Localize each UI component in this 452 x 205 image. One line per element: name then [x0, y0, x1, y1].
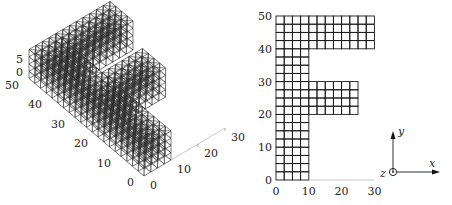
grid-cell — [317, 32, 325, 40]
z-axis-label: z — [379, 167, 386, 180]
y-axis-label: y — [397, 125, 405, 138]
grid-cell — [350, 82, 358, 90]
y-arrow-head-icon — [391, 131, 396, 139]
grid-cell — [292, 164, 300, 172]
grid-cell — [325, 16, 333, 24]
grid-cell — [333, 32, 341, 40]
grid-cell — [358, 32, 366, 40]
grid-cell — [292, 131, 300, 139]
grid-cell — [366, 16, 374, 24]
x-tick-label-3d: 10 — [177, 163, 191, 176]
grid-cell — [342, 82, 350, 90]
grid-cell — [292, 147, 300, 155]
grid-cell — [317, 24, 325, 32]
grid-cell — [301, 82, 309, 90]
grid-cell — [333, 24, 341, 32]
grid-cell — [292, 41, 300, 49]
grid-cell — [292, 123, 300, 131]
grid-cell — [292, 172, 300, 180]
grid-cell — [333, 82, 341, 90]
z-tick-label-3d: 5 — [16, 53, 23, 66]
y-tick-label-3d: 50 — [5, 79, 19, 92]
grid-cell — [301, 24, 309, 32]
grid-cell — [301, 98, 309, 106]
grid-cell — [284, 49, 292, 57]
grid-cell — [317, 82, 325, 90]
grid-cell — [284, 123, 292, 131]
x-tick-label-3d: 0 — [150, 179, 157, 192]
grid-cell — [284, 98, 292, 106]
grid-cell — [301, 131, 309, 139]
y-tick-label-3d: 20 — [74, 137, 88, 150]
grid-cell — [317, 98, 325, 106]
y-tick-label: 10 — [258, 141, 272, 154]
grid-cell — [276, 32, 284, 40]
grid-cell — [292, 155, 300, 163]
x-tick-label-3d: 30 — [231, 131, 245, 144]
x-tick-label: 10 — [302, 185, 316, 198]
grid-cell — [284, 155, 292, 163]
grid-cell — [301, 49, 309, 57]
grid-cell — [276, 57, 284, 65]
grid-cell — [301, 155, 309, 163]
grid-cell — [276, 65, 284, 73]
grid-cell — [333, 106, 341, 114]
grid-cell — [276, 82, 284, 90]
grid-cell — [292, 82, 300, 90]
grid-cell — [292, 16, 300, 24]
grid-cell — [333, 16, 341, 24]
grid-cell — [284, 73, 292, 81]
grid-cell — [301, 16, 309, 24]
y-tick-label: 50 — [258, 10, 272, 23]
grid-cell — [317, 16, 325, 24]
z-tick-label-3d: 0 — [16, 66, 23, 79]
grid-cell — [342, 24, 350, 32]
grid-cell — [342, 98, 350, 106]
grid-cell — [276, 131, 284, 139]
grid-cell — [284, 65, 292, 73]
grid-cell — [309, 82, 317, 90]
grid-cell — [301, 41, 309, 49]
grid-cell — [366, 24, 374, 32]
grid-cell — [358, 24, 366, 32]
grid-cell — [325, 41, 333, 49]
x-tick-label-3d: 20 — [204, 147, 218, 160]
grid-cell — [292, 139, 300, 147]
grid-cell — [292, 98, 300, 106]
grid-cell — [276, 24, 284, 32]
y-tick-label: 40 — [258, 43, 272, 56]
grid-cell — [301, 123, 309, 131]
grid-cell — [350, 32, 358, 40]
grid-cell — [317, 90, 325, 98]
grid-cell — [284, 106, 292, 114]
grid-cell — [276, 73, 284, 81]
grid-cell — [317, 41, 325, 49]
grid-cell — [317, 106, 325, 114]
y-tick-label-3d: 40 — [28, 98, 42, 111]
grid-cell — [276, 147, 284, 155]
grid-cell — [284, 90, 292, 98]
grid-cell — [350, 106, 358, 114]
grid-cell — [309, 90, 317, 98]
y-tick-label: 0 — [265, 174, 272, 187]
y-tick-label-3d: 30 — [51, 118, 65, 131]
grid-cell — [350, 90, 358, 98]
grid-cell — [292, 114, 300, 122]
grid-cell — [366, 32, 374, 40]
grid-cell — [309, 41, 317, 49]
coordinate-axes-indicator: y x z — [379, 125, 440, 180]
grid-cell — [325, 32, 333, 40]
grid-cell — [350, 24, 358, 32]
grid-cell — [284, 147, 292, 155]
grid-cell — [284, 57, 292, 65]
grid-cell — [333, 41, 341, 49]
grid-cell — [292, 32, 300, 40]
grid-cell — [276, 90, 284, 98]
grid-cell — [350, 41, 358, 49]
grid-cell — [276, 49, 284, 57]
grid-cell — [276, 139, 284, 147]
grid-cell — [309, 16, 317, 24]
grid-cell — [292, 57, 300, 65]
grid-cell — [309, 98, 317, 106]
grid-cell — [276, 123, 284, 131]
